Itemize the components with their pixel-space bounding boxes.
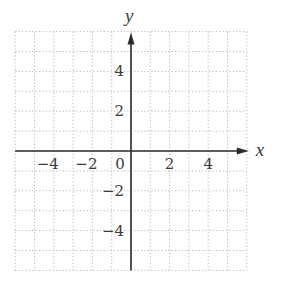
x-axis-arrow-icon bbox=[237, 148, 249, 155]
coordinate-plane: −4−202442−2−4 x y bbox=[0, 0, 282, 293]
x-tick-label: 0 bbox=[115, 155, 125, 173]
y-tick-label: 4 bbox=[114, 62, 124, 80]
x-tick-label: −4 bbox=[37, 155, 59, 173]
x-tick-label: −2 bbox=[75, 155, 97, 173]
y-axis-label: y bbox=[123, 5, 134, 26]
y-tick-label: −4 bbox=[102, 222, 124, 240]
y-axis-arrow-icon bbox=[128, 33, 135, 45]
y-tick-label: 2 bbox=[114, 102, 124, 120]
x-axis-label: x bbox=[255, 139, 265, 160]
x-tick-label: 4 bbox=[203, 155, 213, 173]
axes bbox=[15, 33, 249, 271]
x-tick-label: 2 bbox=[165, 155, 175, 173]
y-tick-label: −2 bbox=[102, 182, 124, 200]
